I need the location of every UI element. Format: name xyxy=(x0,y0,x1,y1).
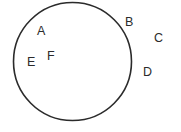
point-label-c: C xyxy=(154,32,163,45)
point-label-e: E xyxy=(27,56,35,69)
geometry-diagram: A B C D E F xyxy=(0,0,181,132)
point-label-f: F xyxy=(47,50,55,63)
point-label-a: A xyxy=(37,25,45,38)
point-label-d: D xyxy=(143,66,152,79)
point-label-b: B xyxy=(125,16,133,29)
